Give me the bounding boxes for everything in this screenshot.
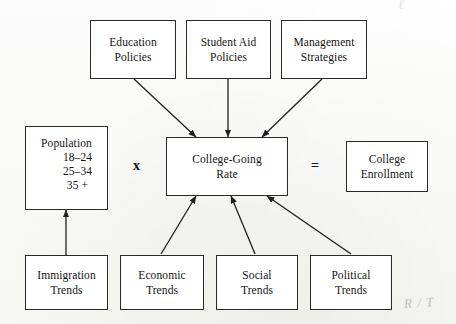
node-label-line: Trends xyxy=(146,283,178,297)
node-label-line: Management xyxy=(293,35,354,49)
node-economic-trends[interactable]: Economic Trends xyxy=(120,255,204,310)
node-political-trends[interactable]: Political Trends xyxy=(310,255,392,310)
node-label-line: Enrollment xyxy=(361,167,414,181)
node-label-line: College-Going xyxy=(192,152,262,166)
node-label-line: Economic xyxy=(138,268,185,282)
edge-social-to-rate xyxy=(231,196,255,254)
diagram-canvas: Education Policies Student Aid Policies … xyxy=(0,0,456,324)
node-population[interactable]: Population 18–24 25–34 35 + xyxy=(25,126,108,210)
node-label-line: Policies xyxy=(210,50,247,64)
node-social-trends[interactable]: Social Trends xyxy=(216,255,298,310)
node-label-line: Political xyxy=(331,268,370,282)
node-label-line: Policies xyxy=(114,50,151,64)
node-label-line: Immigration xyxy=(37,268,96,282)
node-label-line: Social xyxy=(242,268,271,282)
node-label-line: Trends xyxy=(241,283,273,297)
edge-management-to-rate xyxy=(262,79,322,137)
age-group-18-24: 18–24 xyxy=(63,150,92,164)
multiply-operator: x xyxy=(133,158,140,174)
node-label-line: Education xyxy=(109,35,157,49)
node-heading-population: Population xyxy=(26,136,107,150)
age-group-35-plus: 35 + xyxy=(63,178,92,192)
node-label-line: Strategies xyxy=(301,50,347,64)
equals-operator: = xyxy=(311,158,319,174)
handwritten-mark-top-right: ℓ xyxy=(397,0,406,13)
handwritten-mark-bottom-right: R / T xyxy=(403,294,434,312)
node-management-strategies[interactable]: Management Strategies xyxy=(281,20,367,79)
node-label-line: College xyxy=(369,152,405,166)
node-label-line: Trends xyxy=(50,283,82,297)
node-student-aid-policies[interactable]: Student Aid Policies xyxy=(186,20,271,79)
population-age-groups: 18–24 25–34 35 + xyxy=(63,150,92,192)
edge-economic-to-rate xyxy=(161,196,196,254)
node-label-line: Student Aid xyxy=(201,35,257,49)
edge-education-to-rate xyxy=(134,79,196,137)
node-college-enrollment[interactable]: College Enrollment xyxy=(346,141,428,192)
edge-political-to-rate xyxy=(267,196,351,254)
node-college-going-rate[interactable]: College-Going Rate xyxy=(166,137,288,196)
node-label-line: Trends xyxy=(335,283,367,297)
age-group-25-34: 25–34 xyxy=(63,164,92,178)
node-immigration-trends[interactable]: Immigration Trends xyxy=(25,255,108,310)
node-label-line: Rate xyxy=(216,167,237,181)
node-education-policies[interactable]: Education Policies xyxy=(90,20,176,79)
